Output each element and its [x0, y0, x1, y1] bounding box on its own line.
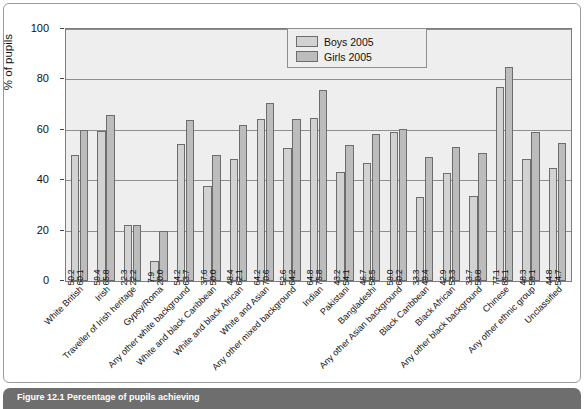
bar-value-label: 50.0: [208, 269, 217, 285]
bar-value-label: 60.2: [394, 269, 403, 285]
bar[interactable]: 54.1: [345, 145, 353, 281]
bar[interactable]: 59.1: [531, 132, 539, 281]
bar[interactable]: 52.6: [283, 148, 291, 281]
bar-value-label: 62.1: [235, 269, 244, 285]
bar-value-label: 50.8: [474, 269, 483, 285]
figure-caption-text: Figure 12.1 Percentage of pupils achievi…: [17, 392, 200, 402]
bar[interactable]: 53.3: [452, 147, 460, 281]
y-tick-mark-0: [60, 280, 64, 281]
bar[interactable]: 50.0: [212, 155, 220, 281]
bar-value-label: 65.8: [102, 269, 111, 285]
bar[interactable]: 49.4: [425, 157, 433, 281]
bar-value-label: 20.0: [155, 269, 164, 285]
bar-group: 64.270.6: [252, 29, 279, 281]
bar[interactable]: 85.1: [505, 67, 513, 281]
bar-value-label: 50.2: [66, 269, 75, 285]
bar-group: 77.185.1: [491, 29, 518, 281]
bar[interactable]: 64.2: [257, 119, 265, 281]
chart-legend: Boys 2005 Girls 2005: [287, 28, 427, 68]
legend-item-boys: Boys 2005: [296, 34, 418, 49]
legend-swatch-girls-icon: [296, 51, 318, 62]
bar-value-label: 70.6: [261, 269, 270, 285]
bar[interactable]: 59.0: [390, 132, 398, 281]
bar[interactable]: 54.2: [177, 144, 185, 281]
y-tick-mark-40: [60, 179, 64, 180]
bar-value-label: 59.0: [385, 269, 394, 285]
bar-value-label: 54.1: [341, 269, 350, 285]
figure-caption-bar: Figure 12.1 Percentage of pupils achievi…: [3, 388, 581, 409]
bar[interactable]: 77.1: [496, 87, 504, 281]
legend-label-girls: Girls 2005: [324, 51, 372, 63]
bar[interactable]: 48.4: [230, 159, 238, 281]
bar-value-label: 49.4: [421, 269, 430, 285]
bar-value-label: 58.5: [368, 269, 377, 285]
bar-group: 54.263.7: [172, 29, 199, 281]
bar-group: 44.854.7: [544, 29, 571, 281]
bar-group: 48.462.1: [225, 29, 252, 281]
bar[interactable]: 50.8: [478, 153, 486, 281]
bar[interactable]: 64.8: [310, 118, 318, 281]
legend-swatch-boys-icon: [296, 36, 318, 47]
bar-value-label: 85.1: [501, 269, 510, 285]
bar-value-label: 54.7: [554, 269, 563, 285]
y-tick-label-0: 0: [15, 274, 49, 286]
bar-value-label: 64.2: [288, 269, 297, 285]
bar-value-label: 60.1: [75, 269, 84, 285]
bar-group: 22.322.2: [119, 29, 146, 281]
bar-value-label: 75.8: [314, 269, 323, 285]
bar-value-label: 48.3: [518, 269, 527, 285]
bar[interactable]: 58.5: [372, 134, 380, 281]
bar-group: 7.920.0: [146, 29, 173, 281]
y-tick-mark-20: [60, 230, 64, 231]
bar-group: 59.465.8: [93, 29, 120, 281]
bar[interactable]: 63.7: [186, 120, 194, 281]
bar[interactable]: 60.1: [80, 130, 88, 281]
y-tick-label-80: 80: [15, 72, 49, 84]
bar-value-label: 63.7: [182, 269, 191, 285]
y-tick-mark-80: [60, 78, 64, 79]
bar[interactable]: 70.6: [266, 103, 274, 281]
bar[interactable]: 43.2: [336, 172, 344, 281]
bar[interactable]: 62.1: [239, 125, 247, 281]
bar[interactable]: 59.4: [97, 131, 105, 281]
y-tick-mark-100: [60, 28, 64, 29]
bar-value-label: 53.3: [447, 269, 456, 285]
bar[interactable]: 64.2: [292, 119, 300, 281]
bar[interactable]: 50.2: [71, 155, 79, 282]
bar[interactable]: 46.7: [363, 163, 371, 281]
bar[interactable]: 75.8: [319, 90, 327, 281]
y-tick-mark-60: [60, 129, 64, 130]
y-axis-label: % of pupils: [2, 2, 14, 122]
y-tick-label-100: 100: [15, 22, 49, 34]
bar-value-label: 7.9: [146, 271, 155, 282]
legend-label-boys: Boys 2005: [324, 36, 374, 48]
bar[interactable]: 33.7: [469, 196, 477, 281]
bar-value-label: 22.2: [128, 269, 137, 285]
bar-group: 37.650.0: [199, 29, 226, 281]
bar-group: 50.260.1: [66, 29, 93, 281]
bar[interactable]: 48.3: [522, 159, 530, 281]
bar[interactable]: 44.8: [549, 168, 557, 281]
bar[interactable]: 65.8: [106, 115, 114, 281]
y-tick-label-60: 60: [15, 123, 49, 135]
bar-value-label: 37.6: [199, 269, 208, 285]
y-tick-label-40: 40: [15, 173, 49, 185]
bar[interactable]: 37.6: [203, 186, 211, 281]
bar[interactable]: 60.2: [399, 129, 407, 281]
y-tick-label-20: 20: [15, 224, 49, 236]
chart-frame: % of pupils 020406080100 50.260.159.465.…: [3, 3, 581, 383]
bar[interactable]: 42.9: [443, 173, 451, 281]
bar-value-label: 59.1: [527, 269, 536, 285]
x-axis-labels: White BritishIrishTraveller of Irish her…: [65, 284, 572, 389]
bar-group: 42.953.3: [438, 29, 465, 281]
bar-group: 48.359.1: [518, 29, 545, 281]
legend-item-girls: Girls 2005: [296, 49, 418, 64]
bar-group: 33.750.8: [465, 29, 492, 281]
bar[interactable]: 20.0: [159, 231, 167, 281]
bar[interactable]: 54.7: [558, 143, 566, 281]
bar-value-label: 43.2: [332, 269, 341, 285]
bar[interactable]: 22.2: [133, 225, 141, 281]
